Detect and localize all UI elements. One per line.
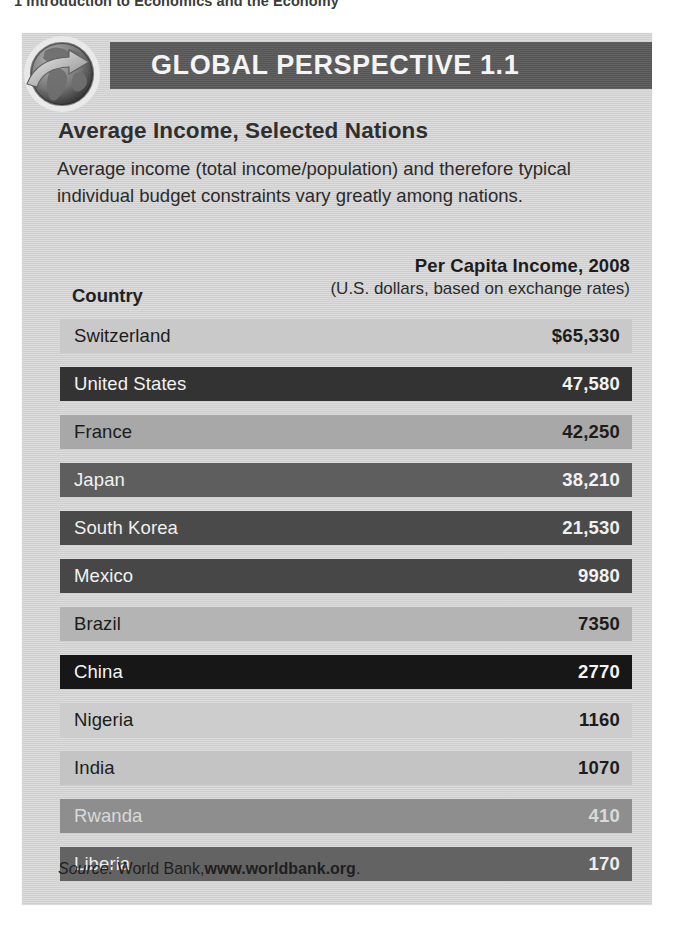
bar-value-label: $65,330 <box>552 325 620 347</box>
column-header-income: Per Capita Income, 2008 (U.S. dollars, b… <box>330 255 630 299</box>
bar-row: Nigeria1160 <box>60 703 632 737</box>
panel-headline: Average Income, Selected Nations <box>58 118 428 144</box>
bar-row: South Korea21,530 <box>60 511 632 545</box>
running-head: 1 Introduction to Economics and the Econ… <box>14 0 339 9</box>
bar-country-label: South Korea <box>74 517 178 539</box>
bar-value-label: 9980 <box>578 565 620 587</box>
bar-country-label: India <box>74 757 115 779</box>
source-url: www.worldbank.org <box>204 860 355 877</box>
bar-value-label: 2770 <box>578 661 620 683</box>
global-perspective-panel: GLOBAL PERSPECTIVE 1.1 <box>22 33 652 905</box>
bar-country-label: China <box>74 661 123 683</box>
income-bar-chart: Switzerland$65,330United States47,580Fra… <box>60 319 632 895</box>
column-header-income-sub: (U.S. dollars, based on exchange rates) <box>330 279 630 299</box>
source-publisher: World Bank, <box>118 860 205 877</box>
bar-row: Japan38,210 <box>60 463 632 497</box>
column-header-country: Country <box>72 285 143 307</box>
bar-country-label: Rwanda <box>74 805 142 827</box>
globe-arrow-icon <box>17 29 107 119</box>
bar-value-label: 170 <box>589 853 620 875</box>
bar-row: Rwanda410 <box>60 799 632 833</box>
panel-title: GLOBAL PERSPECTIVE 1.1 <box>151 50 519 81</box>
bar-row: China2770 <box>60 655 632 689</box>
panel-title-band: GLOBAL PERSPECTIVE 1.1 <box>110 42 652 89</box>
bar-country-label: Nigeria <box>74 709 133 731</box>
bar-value-label: 38,210 <box>562 469 620 491</box>
bar-value-label: 47,580 <box>562 373 620 395</box>
bar-value-label: 1160 <box>579 709 620 731</box>
bar-value-label: 1070 <box>578 757 620 779</box>
bar-country-label: France <box>74 421 132 443</box>
bar-row: United States47,580 <box>60 367 632 401</box>
bar-row: Brazil7350 <box>60 607 632 641</box>
bar-value-label: 21,530 <box>562 517 620 539</box>
bar-value-label: 42,250 <box>562 421 620 443</box>
source-line: Source: World Bank,www.worldbank.org. <box>58 860 360 878</box>
bar-country-label: Switzerland <box>74 325 171 347</box>
bar-row: Switzerland$65,330 <box>60 319 632 353</box>
bar-country-label: Japan <box>74 469 125 491</box>
source-label: Source: <box>58 860 113 877</box>
bar-country-label: Brazil <box>74 613 121 635</box>
bar-country-label: Mexico <box>74 565 133 587</box>
panel-intro-text: Average income (total income/population)… <box>57 155 632 209</box>
bar-row: France42,250 <box>60 415 632 449</box>
bar-value-label: 410 <box>589 805 620 827</box>
column-header-income-main: Per Capita Income, 2008 <box>330 255 630 277</box>
bar-row: India1070 <box>60 751 632 785</box>
source-period: . <box>356 860 360 877</box>
bar-value-label: 7350 <box>578 613 620 635</box>
bar-country-label: United States <box>74 373 186 395</box>
bar-row: Mexico9980 <box>60 559 632 593</box>
